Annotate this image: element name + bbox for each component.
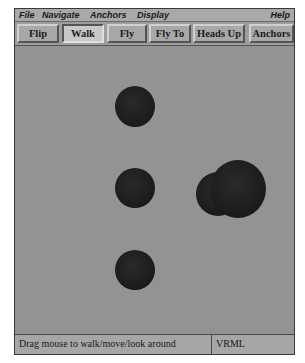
fly-button[interactable]: Fly (107, 24, 147, 43)
menu-file[interactable]: File (19, 9, 35, 21)
flip-button[interactable]: Flip (17, 24, 59, 43)
status-message: Drag mouse to walk/move/look around (19, 335, 176, 353)
sphere-top[interactable] (115, 86, 155, 127)
status-bar: Drag mouse to walk/move/look around VRML (15, 334, 294, 354)
anchors-button[interactable]: Anchors (249, 24, 294, 43)
menu-help[interactable]: Help (270, 9, 290, 21)
vrml-browser-window: File Navigate Anchors Display Help Flip … (14, 8, 295, 355)
fly-to-button[interactable]: Fly To (149, 24, 191, 43)
menu-display[interactable]: Display (137, 9, 169, 21)
status-divider (211, 335, 212, 354)
menu-anchors[interactable]: Anchors (90, 9, 127, 21)
menu-navigate[interactable]: Navigate (42, 9, 80, 21)
status-mode: VRML (216, 335, 245, 353)
heads-up-button[interactable]: Heads Up (193, 24, 245, 43)
sphere-middle[interactable] (115, 168, 155, 208)
toolbar: Flip Walk Fly Fly To Heads Up Anchors (15, 22, 294, 46)
sphere-bottom[interactable] (115, 250, 155, 290)
sphere-right-front[interactable] (210, 160, 266, 218)
walk-button[interactable]: Walk (62, 24, 104, 43)
menu-bar: File Navigate Anchors Display Help (15, 9, 294, 22)
3d-viewport[interactable] (15, 46, 294, 334)
